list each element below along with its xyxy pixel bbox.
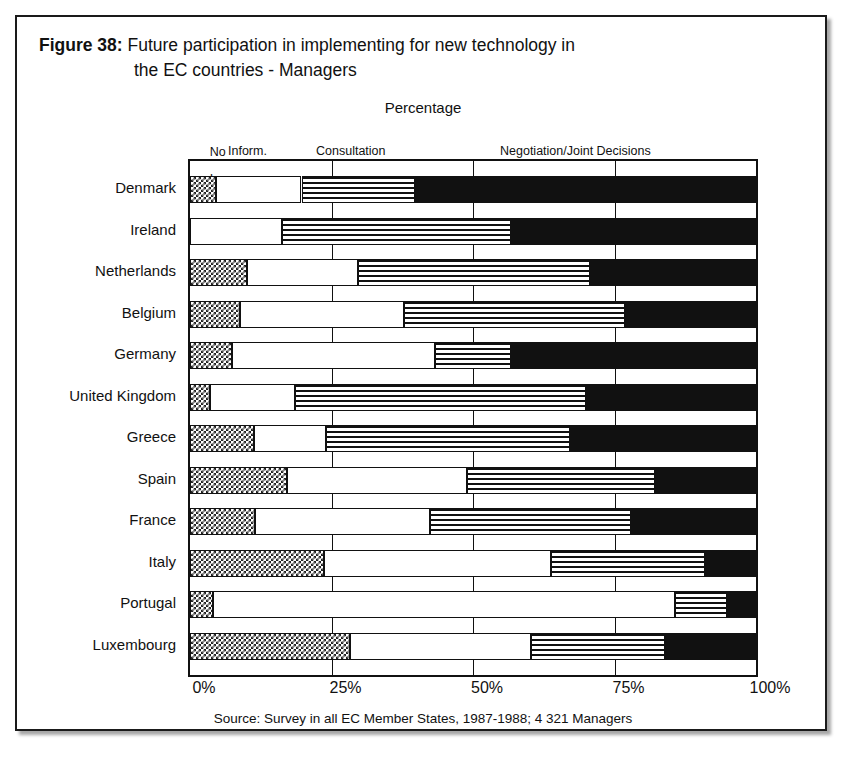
- bar-segment-consultation: [675, 591, 727, 618]
- tick-label-0: 0%: [192, 679, 215, 697]
- bar-segment-no-inv: [190, 633, 350, 660]
- bar-segment-inform: [247, 259, 359, 286]
- legend-item-inform: Inform.: [228, 145, 267, 159]
- category-axis-labels: DenmarkIrelandNetherlandsBelgiumGermanyU…: [17, 159, 185, 677]
- bar-row: [190, 591, 756, 618]
- bar-segment-consultation: [435, 342, 511, 369]
- bar-row: [190, 384, 756, 411]
- bar-segment-no-inv: [190, 301, 240, 328]
- bar-segment-consultation: [551, 550, 706, 577]
- bar-segment-no-inv: [190, 425, 254, 452]
- bar-segment-no-inv: [190, 550, 324, 577]
- figure-title: Figure 38: Future participation in imple…: [39, 33, 799, 83]
- bar-row: [190, 550, 756, 577]
- bar-segment-no-inv: [190, 342, 232, 369]
- category-label-france: France: [129, 506, 176, 533]
- bar-segment-negotiation: [631, 508, 756, 535]
- bar-segment-negotiation: [511, 342, 756, 369]
- legend-no-inv-line1: No: [210, 145, 226, 159]
- bar-segment-inform: [350, 633, 531, 660]
- plot-area: [188, 159, 758, 677]
- bar-segment-no-inv: [190, 176, 216, 203]
- source-note: Source: Survey in all EC Member States, …: [17, 711, 829, 726]
- bar-segment-consultation: [404, 301, 625, 328]
- bar-segment-consultation: [531, 633, 666, 660]
- legend-item-negotiation: Negotiation/Joint Decisions: [500, 145, 651, 159]
- category-label-denmark: Denmark: [115, 174, 176, 201]
- bar-segment-inform: [254, 425, 326, 452]
- category-label-spain: Spain: [138, 465, 176, 492]
- bar-segment-consultation: [430, 508, 631, 535]
- category-label-luxembourg: Luxembourg: [93, 631, 176, 658]
- category-label-united-kingdom: United Kingdom: [69, 382, 176, 409]
- bar-segment-inform: [287, 467, 468, 494]
- bar-segment-negotiation: [625, 301, 756, 328]
- bar-segment-consultation: [302, 176, 416, 203]
- bar-segment-negotiation: [570, 425, 756, 452]
- value-axis: 0%25%50%75%100%: [188, 679, 758, 701]
- bar-segment-no-inv: [190, 508, 255, 535]
- title-line-2: the EC countries - Managers: [39, 58, 799, 83]
- bar-segment-inform: [210, 384, 295, 411]
- bar-row: [190, 633, 756, 660]
- category-label-portugal: Portugal: [120, 589, 176, 616]
- bar-segment-negotiation: [655, 467, 756, 494]
- bar-segment-negotiation: [511, 218, 756, 245]
- figure-number: Figure 38:: [39, 35, 123, 55]
- bar-segment-negotiation: [705, 550, 756, 577]
- axis-title-percentage: Percentage: [17, 99, 829, 116]
- bar-row: [190, 467, 756, 494]
- bar-row: [190, 342, 756, 369]
- bar-segment-inform: [190, 218, 282, 245]
- category-label-ireland: Ireland: [130, 216, 176, 243]
- category-label-italy: Italy: [148, 548, 176, 575]
- category-label-netherlands: Netherlands: [95, 257, 176, 284]
- bar-series-container: [190, 161, 756, 675]
- bar-segment-no-inv: [190, 591, 213, 618]
- title-line-1: Figure 38: Future participation in imple…: [39, 33, 799, 58]
- bar-row: [190, 259, 756, 286]
- bar-segment-inform: [324, 550, 551, 577]
- bar-segment-consultation: [282, 218, 511, 245]
- category-label-belgium: Belgium: [122, 299, 176, 326]
- bar-segment-inform: [232, 342, 435, 369]
- bar-segment-consultation: [358, 259, 590, 286]
- bar-segment-no-inv: [190, 467, 287, 494]
- bar-row: [190, 218, 756, 245]
- bar-segment-negotiation: [415, 176, 756, 203]
- bar-segment-consultation: [295, 384, 586, 411]
- category-label-germany: Germany: [114, 340, 176, 367]
- bar-segment-inform: [213, 591, 675, 618]
- bar-segment-consultation: [467, 467, 655, 494]
- legend-item-consultation: Consultation: [316, 145, 386, 159]
- bar-segment-no-inv: [190, 384, 210, 411]
- bar-segment-negotiation: [665, 633, 756, 660]
- tick-label-50: 50%: [471, 679, 503, 697]
- bar-segment-negotiation: [586, 384, 756, 411]
- tick-label-100: 100%: [750, 679, 791, 697]
- bar-segment-no-inv: [190, 259, 247, 286]
- bar-segment-inform: [255, 508, 430, 535]
- bar-row: [190, 176, 756, 203]
- bar-segment-consultation: [326, 425, 571, 452]
- bar-row: [190, 425, 756, 452]
- bar-row: [190, 301, 756, 328]
- category-label-greece: Greece: [127, 423, 176, 450]
- bar-segment-negotiation: [590, 259, 756, 286]
- bar-segment-inform: [240, 301, 404, 328]
- tick-label-25: 25%: [329, 679, 361, 697]
- title-text-1: Future participation in implementing for…: [123, 35, 575, 55]
- tick-label-75: 75%: [612, 679, 644, 697]
- bar-segment-negotiation: [727, 591, 756, 618]
- figure-frame: Figure 38: Future participation in imple…: [15, 15, 827, 731]
- bar-segment-inform: [216, 176, 301, 203]
- bar-row: [190, 508, 756, 535]
